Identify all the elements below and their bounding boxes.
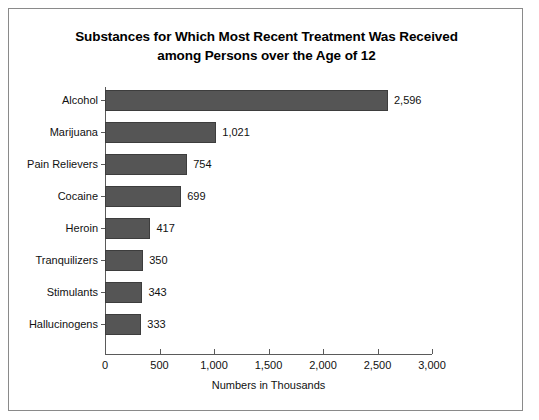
bar [105, 154, 187, 175]
bar [105, 90, 388, 111]
x-axis-tick-label: 2,000 [309, 359, 337, 371]
category-label: Stimulants [8, 282, 98, 303]
x-axis-tick-label: 2,500 [364, 359, 392, 371]
category-label: Alcohol [8, 90, 98, 111]
bar-value-label: 754 [187, 154, 211, 175]
bar [105, 218, 150, 239]
bar [105, 250, 143, 271]
bar-value-label: 350 [143, 250, 167, 271]
x-axis-tick [323, 349, 324, 354]
bar [105, 122, 216, 143]
chart-title: Substances for Which Most Recent Treatme… [9, 27, 523, 65]
category-label: Pain Relievers [8, 154, 98, 175]
bar-value-label: 2,596 [388, 90, 422, 111]
x-axis-title: Numbers in Thousands [105, 379, 432, 391]
chart-frame: Substances for Which Most Recent Treatme… [8, 8, 523, 411]
bar-value-label: 1,021 [216, 122, 250, 143]
x-axis-tick-label: 1,500 [255, 359, 283, 371]
bar [105, 282, 142, 303]
chart-title-line-1: Substances for Which Most Recent Treatme… [9, 27, 523, 46]
x-axis-tick [105, 349, 106, 354]
bar-value-label: 333 [141, 314, 165, 335]
x-axis-tick-label: 0 [102, 359, 108, 371]
category-label: Tranquilizers [8, 250, 98, 271]
x-axis-tick-label: 3,000 [418, 359, 446, 371]
x-axis-tick-label: 500 [150, 359, 168, 371]
x-axis-tick-label: 1,000 [200, 359, 228, 371]
bar-value-label: 343 [142, 282, 166, 303]
x-axis-tick [160, 349, 161, 354]
category-label: Marijuana [8, 122, 98, 143]
chart-title-line-2: among Persons over the Age of 12 [9, 46, 523, 65]
x-axis-tick [269, 349, 270, 354]
x-axis-line [105, 354, 432, 355]
bar [105, 314, 141, 335]
x-axis-tick [214, 349, 215, 354]
category-label: Heroin [8, 218, 98, 239]
x-axis-tick [432, 349, 433, 354]
category-label: Hallucinogens [8, 314, 98, 335]
category-label: Cocaine [8, 186, 98, 207]
bar [105, 186, 181, 207]
x-axis-tick [378, 349, 379, 354]
bar-value-label: 417 [150, 218, 174, 239]
plot-area: Alcohol2,596Marijuana1,021Pain Relievers… [105, 87, 439, 357]
bar-value-label: 699 [181, 186, 205, 207]
